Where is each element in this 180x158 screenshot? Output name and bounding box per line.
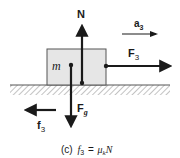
gravity-force-label: Fg [77, 102, 88, 117]
mass-label: m [52, 59, 61, 73]
applied-force-arrow [104, 64, 168, 68]
applied-force-label: F3 [128, 47, 140, 62]
figure-caption: (c) f3 = μkN [61, 144, 114, 157]
free-body-diagram: m N Fg F3 a3 f3 (c) f3 = μkN [0, 0, 180, 158]
ground-surface [10, 85, 170, 95]
acceleration-label: a3 [134, 18, 144, 31]
friction-force-label: f3 [37, 119, 46, 134]
normal-force-label: N [77, 8, 85, 20]
